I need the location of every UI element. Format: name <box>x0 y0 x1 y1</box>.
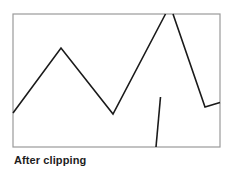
clipping-diagram-canvas <box>0 0 231 179</box>
clipping-rectangle <box>13 14 220 147</box>
figure-caption: After clipping <box>14 154 86 167</box>
figure-after-clipping: After clipping <box>0 0 231 179</box>
